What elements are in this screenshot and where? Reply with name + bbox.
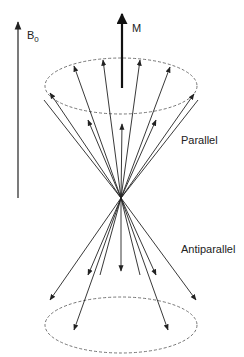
magnetization-label: M <box>132 22 141 34</box>
antiparallel-label: Antiparallel <box>181 243 235 255</box>
b0-label: B0 <box>27 29 39 44</box>
antiparallel-spin-vectors <box>50 198 196 330</box>
lower-precession-cone-ellipse <box>45 297 197 353</box>
nmr-spin-precession-diagram: B0 M Parallel Antiparallel <box>0 0 244 357</box>
diagram-graphic <box>0 0 244 357</box>
b0-label-subscript: 0 <box>34 35 38 44</box>
parallel-label: Parallel <box>181 134 218 146</box>
